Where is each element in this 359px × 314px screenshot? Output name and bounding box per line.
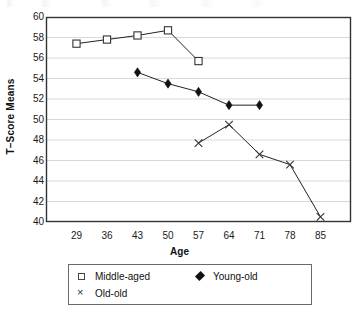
data-point-marker-open-square bbox=[195, 57, 202, 64]
x-cross-icon: × bbox=[77, 288, 88, 299]
open-square-icon bbox=[77, 271, 88, 282]
data-point-marker-x-cross bbox=[286, 161, 294, 169]
series-old-old bbox=[195, 121, 325, 221]
data-point-marker-filled-diamond bbox=[256, 101, 262, 110]
data-point-marker-x-cross bbox=[225, 121, 233, 129]
legend-entry: Middle-aged bbox=[77, 271, 195, 282]
data-point-marker-filled-diamond bbox=[226, 101, 232, 110]
data-point-marker-x-cross bbox=[317, 213, 325, 221]
data-point-marker-filled-diamond bbox=[195, 87, 201, 96]
series-young-old bbox=[134, 68, 262, 110]
legend-entry: ×Old-old bbox=[77, 288, 195, 299]
data-point-marker-x-cross bbox=[256, 151, 264, 159]
series-middle-aged bbox=[73, 27, 202, 65]
data-point-marker-open-square bbox=[73, 40, 80, 47]
legend-label: Middle-aged bbox=[95, 271, 150, 282]
filled-diamond-icon bbox=[195, 271, 206, 282]
legend-entry: Young-old bbox=[195, 271, 313, 282]
chart-legend: Middle-agedYoung-old×Old-old bbox=[68, 264, 312, 305]
legend-label: Young-old bbox=[213, 271, 258, 282]
chart-figure: T–Score Means 6058565452504846444240 293… bbox=[0, 0, 359, 314]
data-point-marker-open-square bbox=[164, 27, 171, 34]
data-point-marker-open-square bbox=[134, 32, 141, 39]
data-point-marker-filled-diamond bbox=[134, 68, 140, 77]
data-point-marker-filled-diamond bbox=[165, 79, 171, 88]
legend-label: Old-old bbox=[95, 288, 127, 299]
data-point-marker-open-square bbox=[103, 36, 110, 43]
legend-entries: Middle-agedYoung-old×Old-old bbox=[69, 265, 311, 305]
series-line bbox=[199, 125, 321, 217]
